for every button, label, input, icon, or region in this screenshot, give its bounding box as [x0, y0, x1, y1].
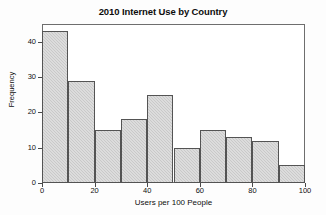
x-axis-tick-label: 80	[242, 187, 262, 195]
x-axis-tick-mark	[147, 183, 148, 187]
histogram-bar	[95, 130, 121, 183]
histogram-bar	[121, 119, 147, 183]
histogram-bar	[200, 130, 226, 183]
y-axis-tick-mark	[38, 112, 42, 113]
y-axis-label: Frequency	[7, 55, 16, 125]
x-axis-tick-label: 100	[295, 187, 315, 195]
histogram-bar	[147, 95, 173, 183]
x-axis-tick-label: 0	[32, 187, 52, 195]
x-axis-tick-label: 60	[190, 187, 210, 195]
x-axis-tick-mark	[252, 183, 253, 187]
bars-layer	[42, 24, 305, 183]
y-axis-tick-mark	[38, 148, 42, 149]
histogram-bar	[279, 165, 305, 183]
x-axis-tick-label: 40	[137, 187, 157, 195]
x-axis-tick-mark	[200, 183, 201, 187]
chart-title: 2010 Internet Use by Country	[0, 6, 326, 17]
x-axis-tick-mark	[305, 183, 306, 187]
x-axis-label: Users per 100 People	[42, 198, 305, 207]
y-axis-tick-label: 20	[20, 108, 36, 116]
x-axis-tick-mark	[95, 183, 96, 187]
histogram-bar	[226, 137, 252, 183]
y-axis-tick-mark	[38, 42, 42, 43]
histogram-bar	[252, 141, 278, 183]
y-axis-tick-mark	[38, 77, 42, 78]
histogram-bar	[42, 31, 68, 183]
histogram-bar	[68, 81, 94, 183]
y-axis-tick-label: 0	[20, 179, 36, 187]
histogram-figure: 2010 Internet Use by Country 010203040 0…	[0, 0, 326, 215]
y-axis-tick-label: 40	[20, 38, 36, 46]
x-axis-tick-label: 20	[85, 187, 105, 195]
x-axis-tick-mark	[42, 183, 43, 187]
y-axis-tick-label: 30	[20, 73, 36, 81]
y-axis-tick-label: 10	[20, 144, 36, 152]
histogram-bar	[174, 148, 200, 183]
